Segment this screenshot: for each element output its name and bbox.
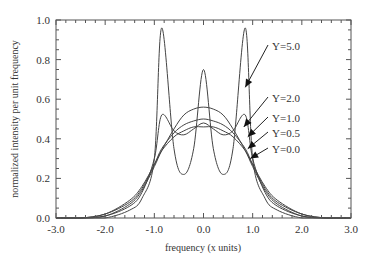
series-line-y05 bbox=[56, 119, 351, 218]
series-line-y00 bbox=[56, 127, 351, 218]
annotation-label: Y=2.0 bbox=[272, 92, 300, 104]
annotation-label: Y=0.5 bbox=[272, 127, 300, 139]
x-tick-label: 3.0 bbox=[344, 223, 358, 235]
y-axis-label: normalized intensity per unit frequency bbox=[9, 40, 20, 198]
y-tick-label: 1.0 bbox=[36, 14, 50, 26]
y-tick-label: 0.0 bbox=[36, 212, 50, 224]
annotation-label: Y=1.0 bbox=[272, 112, 300, 124]
series-line-y10 bbox=[56, 107, 351, 218]
series-line-y20 bbox=[56, 114, 351, 218]
annotation-label: Y=0.0 bbox=[272, 143, 300, 155]
y-tick-label: 0.8 bbox=[36, 54, 50, 66]
axis-ticks: -3.0-2.0-1.00.01.02.03.00.00.20.40.60.81… bbox=[36, 14, 358, 235]
x-tick-label: 0.0 bbox=[197, 223, 211, 235]
x-tick-label: 2.0 bbox=[295, 223, 309, 235]
y-tick-label: 0.2 bbox=[36, 172, 50, 184]
annotation-label: Y=5.0 bbox=[272, 40, 300, 52]
x-tick-label: 1.0 bbox=[246, 223, 260, 235]
x-tick-label: -3.0 bbox=[47, 223, 65, 235]
x-axis-label: frequency (x units) bbox=[165, 242, 241, 254]
curves bbox=[56, 28, 351, 218]
x-tick-label: -2.0 bbox=[96, 223, 114, 235]
x-tick-label: -1.0 bbox=[146, 223, 164, 235]
line-chart: -3.0-2.0-1.00.01.02.03.00.00.20.40.60.81… bbox=[0, 0, 372, 268]
annotations: Y=5.0Y=2.0Y=1.0Y=0.5Y=0.0 bbox=[244, 40, 301, 159]
y-tick-label: 0.6 bbox=[36, 93, 50, 105]
y-tick-label: 0.4 bbox=[36, 133, 50, 145]
